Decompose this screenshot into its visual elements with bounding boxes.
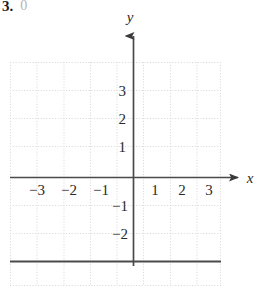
x-tick-label: 3 [205,182,213,198]
y-tick-label: 2 [119,111,127,127]
graph-svg: y x −3 −2 −1 1 2 3 3 2 1 −1 −2 [0,0,261,292]
x-tick-labels: −3 −2 −1 1 2 3 [29,182,213,198]
grid-lines-horizontal [10,63,221,286]
grid-lines-vertical [11,62,221,286]
x-tick-label: −1 [93,182,109,198]
grid-lines [10,62,221,286]
x-tick-label: −2 [61,182,77,198]
x-axis-label: x [246,170,254,186]
y-tick-label: 1 [119,139,127,155]
y-tick-labels: 3 2 1 −1 −2 [112,83,128,242]
x-tick-label: 1 [151,182,159,198]
coordinate-plane-graph: y x −3 −2 −1 1 2 3 3 2 1 −1 −2 [0,0,261,292]
x-tick-label: 2 [178,182,186,198]
y-axis-label: y [125,9,134,25]
y-tick-label: −2 [112,226,128,242]
y-tick-label: 3 [119,83,127,99]
y-tick-label: −1 [112,198,128,214]
x-tick-label: −3 [29,182,45,198]
